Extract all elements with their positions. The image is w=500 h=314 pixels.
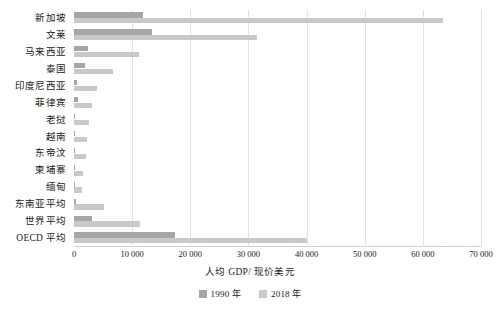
gridline <box>481 10 482 247</box>
bar-1990 <box>74 232 175 237</box>
x-tick-label: 20 000 <box>179 249 202 259</box>
x-tick-label: 50 000 <box>353 249 376 259</box>
bar-group <box>74 129 481 146</box>
category-label: 东帝汶 <box>35 145 66 162</box>
category-axis-labels: 新加坡文莱马来西亚泰国印度尼西亚菲律宾老挝越南东帝汶柬埔寨缅甸东南亚平均世界平均… <box>0 10 70 247</box>
category-label: 东南亚平均 <box>15 196 66 213</box>
bar-2018 <box>74 52 139 57</box>
bar-2018 <box>74 154 86 159</box>
legend-item[interactable]: 1990 年 <box>199 287 241 300</box>
bar-group <box>74 27 481 44</box>
bar-1990 <box>74 80 77 85</box>
bar-group <box>74 213 481 230</box>
category-label: 菲律宾 <box>35 95 66 112</box>
bar-chart: 新加坡文莱马来西亚泰国印度尼西亚菲律宾老挝越南东帝汶柬埔寨缅甸东南亚平均世界平均… <box>0 0 500 314</box>
bar-2018 <box>74 187 82 192</box>
x-tick-label: 40 000 <box>295 249 318 259</box>
bar-group <box>74 196 481 213</box>
legend-swatch-icon <box>199 290 207 298</box>
category-label: OECD 平均 <box>16 230 66 247</box>
bar-1990 <box>74 12 143 17</box>
category-label: 泰国 <box>46 61 66 78</box>
bar-2018 <box>74 221 140 226</box>
x-tick-label: 10 000 <box>120 249 143 259</box>
category-label: 新加坡 <box>35 10 66 27</box>
bar-group <box>74 230 481 247</box>
x-axis-title: 人均 GDP/ 现价美元 <box>0 264 500 278</box>
x-tick-label: 60 000 <box>411 249 434 259</box>
bar-1990 <box>74 131 75 136</box>
bar-1990 <box>74 97 78 102</box>
legend-label: 1990 年 <box>211 287 241 300</box>
bar-group <box>74 95 481 112</box>
x-tick-label: 70 000 <box>469 249 492 259</box>
bar-1990 <box>74 216 92 221</box>
bar-2018 <box>74 171 83 176</box>
bar-2018 <box>74 86 97 91</box>
chart-legend: 1990 年2018 年 <box>0 287 500 300</box>
category-label: 印度尼西亚 <box>15 78 66 95</box>
bar-1990 <box>74 63 85 68</box>
bar-1990 <box>74 182 75 187</box>
legend-item[interactable]: 2018 年 <box>259 287 301 300</box>
category-label: 老挝 <box>46 112 66 129</box>
bar-1990 <box>74 29 152 34</box>
plot-area <box>74 10 481 247</box>
category-label: 世界平均 <box>25 213 66 230</box>
category-label: 马来西亚 <box>25 44 66 61</box>
x-tick-label: 30 000 <box>237 249 260 259</box>
bar-group <box>74 179 481 196</box>
bar-group <box>74 162 481 179</box>
x-tick-label: 0 <box>72 249 76 259</box>
bar-2018 <box>74 35 257 40</box>
category-label: 柬埔寨 <box>35 162 66 179</box>
bar-group <box>74 61 481 78</box>
bar-group <box>74 44 481 61</box>
category-label: 越南 <box>46 129 66 146</box>
legend-label: 2018 年 <box>271 287 301 300</box>
bar-1990 <box>74 199 76 204</box>
bar-1990 <box>74 148 75 153</box>
bar-group <box>74 145 481 162</box>
category-label: 文莱 <box>46 27 66 44</box>
bar-2018 <box>74 69 113 74</box>
bar-2018 <box>74 18 443 23</box>
bar-2018 <box>74 137 87 142</box>
legend-swatch-icon <box>259 290 267 298</box>
bar-1990 <box>74 46 88 51</box>
bar-group <box>74 78 481 95</box>
bar-2018 <box>74 238 307 243</box>
bar-1990 <box>74 114 75 119</box>
bar-2018 <box>74 103 92 108</box>
bar-2018 <box>74 120 89 125</box>
category-label: 缅甸 <box>46 179 66 196</box>
bar-2018 <box>74 204 104 209</box>
bar-1990 <box>74 165 75 170</box>
bar-group <box>74 10 481 27</box>
bar-group <box>74 112 481 129</box>
